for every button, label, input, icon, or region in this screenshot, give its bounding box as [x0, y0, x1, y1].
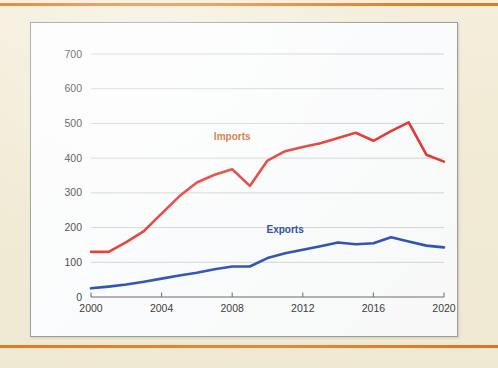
x-axis-label-2004: 2004 — [150, 302, 174, 314]
x-axis-label-2016: 2016 — [362, 302, 386, 314]
x-axis-label-2000: 2000 — [79, 302, 103, 314]
x-axis-label-2008: 2008 — [221, 302, 245, 314]
chart-svg: 0100200300400500600700200020042008201220… — [31, 23, 457, 336]
y-axis-label-400: 400 — [64, 152, 82, 164]
series-line-exports — [91, 237, 444, 288]
y-axis-label-100: 100 — [64, 256, 82, 268]
y-axis-label-0: 0 — [76, 291, 82, 303]
y-axis-label-300: 300 — [64, 186, 82, 198]
top-rule-divider — [0, 3, 498, 6]
bottom-rule-divider — [0, 345, 498, 348]
y-axis-label-500: 500 — [64, 117, 82, 129]
y-axis-label-600: 600 — [64, 82, 82, 94]
x-axis-label-2012: 2012 — [291, 302, 315, 314]
y-axis-label-200: 200 — [64, 221, 82, 233]
series-label-exports: Exports — [267, 224, 305, 235]
y-axis-label-700: 700 — [64, 48, 82, 60]
series-label-imports: Imports — [214, 131, 251, 142]
line-chart: 0100200300400500600700200020042008201220… — [31, 23, 457, 336]
x-axis-label-2020: 2020 — [432, 302, 456, 314]
chart-panel: 0100200300400500600700200020042008201220… — [30, 22, 458, 337]
page-background: 0100200300400500600700200020042008201220… — [0, 0, 498, 368]
